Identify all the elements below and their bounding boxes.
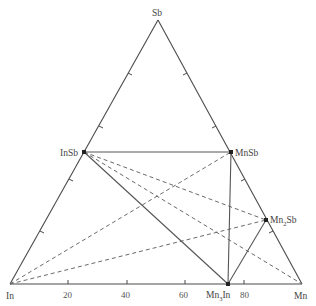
phase-label-mn3in: Mn3In bbox=[206, 290, 231, 302]
point-mn2sb bbox=[264, 218, 268, 222]
tie-mn2sb-mn3in bbox=[228, 220, 266, 284]
point-mnsb bbox=[229, 150, 233, 154]
phase-label-mn2sb: Mn2Sb bbox=[270, 215, 297, 227]
tick-label-40: 40 bbox=[121, 290, 131, 300]
vertex-label-mn: Mn bbox=[294, 291, 307, 301]
tie-in-mnsb bbox=[10, 152, 231, 284]
tie-mnsb-mn3in bbox=[228, 152, 231, 284]
point-insb bbox=[82, 150, 86, 154]
tie-insb-mn3in bbox=[84, 152, 228, 284]
phase-label-insb: InSb bbox=[60, 148, 78, 158]
tick-label-60: 60 bbox=[179, 290, 189, 300]
ternary-diagram: Sb In Mn 20 40 60 80 InSb MnSb Mn2Sb Mn3… bbox=[0, 0, 316, 306]
solid-tie-lines bbox=[84, 152, 266, 284]
tick-label-80: 80 bbox=[240, 290, 250, 300]
phase-label-mnsb: MnSb bbox=[235, 148, 258, 158]
point-mn3in bbox=[226, 282, 230, 286]
tick-marks bbox=[40, 73, 273, 284]
tie-in-mn2sb bbox=[10, 220, 266, 284]
tick-label-20: 20 bbox=[63, 290, 73, 300]
vertex-label-in: In bbox=[6, 291, 14, 301]
vertex-label-sb: Sb bbox=[152, 8, 162, 18]
